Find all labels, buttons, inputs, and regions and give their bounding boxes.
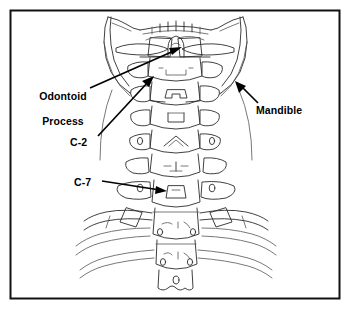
label-odontoid-process: Odontoid Process — [26, 77, 88, 140]
anatomy-illustration — [0, 0, 350, 310]
label-odontoid-line2: Process — [42, 115, 84, 127]
figure-frame — [11, 11, 340, 299]
cervical-spine-figure: Odontoid Process C-2 C-7 Mandible — [0, 0, 350, 310]
label-c7: C-7 — [74, 176, 91, 189]
label-odontoid-line1: Odontoid — [39, 90, 86, 102]
label-mandible: Mandible — [256, 104, 302, 117]
label-c2: C-2 — [70, 136, 87, 149]
